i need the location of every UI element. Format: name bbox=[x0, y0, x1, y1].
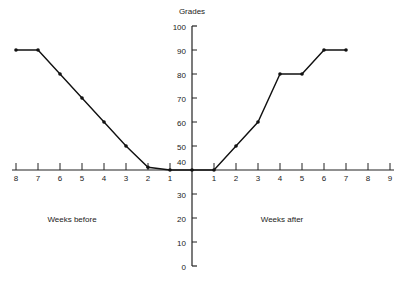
data-point bbox=[278, 72, 282, 76]
y-tick-label: 90 bbox=[177, 47, 186, 56]
data-point bbox=[146, 166, 150, 170]
x-tick-label: 4 bbox=[278, 174, 283, 183]
x-tick-label: 2 bbox=[234, 174, 239, 183]
y-axis-title: Grades bbox=[179, 7, 205, 16]
x-tick-label: 1 bbox=[168, 174, 173, 183]
y-tick-label: 80 bbox=[177, 71, 186, 80]
x-tick-label: 2 bbox=[146, 174, 151, 183]
y-tick-label: 70 bbox=[177, 95, 186, 104]
y-tick-label: 50 bbox=[177, 143, 186, 152]
x-axis-title-before: Weeks before bbox=[47, 215, 97, 224]
x-tick-label: 7 bbox=[36, 174, 41, 183]
data-point bbox=[300, 72, 304, 76]
data-series bbox=[14, 48, 348, 172]
data-point bbox=[124, 144, 128, 148]
data-point bbox=[14, 48, 18, 52]
data-point bbox=[322, 48, 326, 52]
y-tick-label: 100 bbox=[173, 23, 187, 32]
data-point bbox=[102, 120, 106, 124]
x-tick-label: 3 bbox=[124, 174, 129, 183]
x-tick-label: 3 bbox=[256, 174, 261, 183]
grades-chart: 0102030405060708090100Grades876543211234… bbox=[0, 0, 408, 286]
y-tick-label: 10 bbox=[177, 239, 186, 248]
grades-line bbox=[16, 50, 346, 170]
x-axis-title-after: Weeks after bbox=[261, 215, 304, 224]
axes bbox=[12, 26, 394, 266]
x-tick-label: 8 bbox=[366, 174, 371, 183]
data-point bbox=[190, 168, 194, 172]
y-tick-label: 60 bbox=[177, 119, 186, 128]
axis-labels: 0102030405060708090100Grades876543211234… bbox=[14, 7, 393, 272]
data-point bbox=[58, 72, 62, 76]
x-tick-label: 6 bbox=[58, 174, 63, 183]
data-point bbox=[234, 144, 238, 148]
data-point bbox=[80, 96, 84, 100]
x-tick-label: 1 bbox=[212, 174, 217, 183]
x-tick-label: 7 bbox=[344, 174, 349, 183]
x-tick-label: 6 bbox=[322, 174, 327, 183]
data-point bbox=[344, 48, 348, 52]
x-tick-label: 5 bbox=[300, 174, 305, 183]
x-tick-label: 9 bbox=[388, 174, 393, 183]
data-point bbox=[36, 48, 40, 52]
x-tick-label: 8 bbox=[14, 174, 19, 183]
y-tick-label: 20 bbox=[177, 215, 186, 224]
y-tick-label: 0 bbox=[182, 263, 187, 272]
data-point bbox=[256, 120, 260, 124]
y-tick-label: 40 bbox=[177, 158, 186, 167]
data-point bbox=[212, 168, 216, 172]
y-tick-label: 30 bbox=[177, 191, 186, 200]
x-tick-label: 4 bbox=[102, 174, 107, 183]
x-tick-label: 5 bbox=[80, 174, 85, 183]
data-point bbox=[168, 168, 172, 172]
